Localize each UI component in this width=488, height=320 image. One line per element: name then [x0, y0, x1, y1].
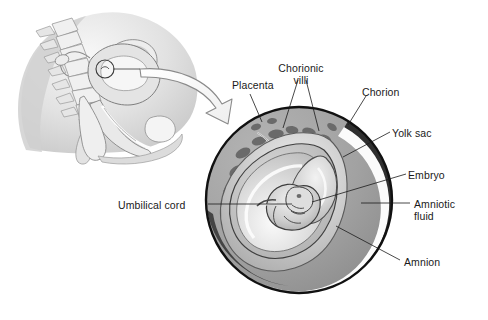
diagram-canvas	[0, 0, 488, 320]
leader-chorion	[348, 96, 366, 125]
label-embryo: Embryo	[408, 170, 445, 182]
label-amnion: Amnion	[404, 257, 440, 269]
label-umbilical-cord: Umbilical cord	[118, 200, 185, 212]
label-chorionic-villi: Chorionic villi	[265, 63, 337, 86]
embryo-eye	[297, 194, 302, 198]
label-yolk-sac-line-1: Yolk sac	[392, 128, 432, 140]
label-amniotic-fluid: Amniotic fluid	[414, 199, 455, 222]
label-chorionic-villi-line-1: Chorionic	[265, 63, 337, 75]
label-umbilical-cord-line-1: Umbilical cord	[118, 200, 185, 212]
label-chorionic-villi-line-2: villi	[265, 75, 337, 87]
label-chorion: Chorion	[362, 87, 399, 99]
label-amnion-line-1: Amnion	[404, 257, 440, 269]
embryo-head	[286, 187, 313, 213]
label-amniotic-fluid-line-2: fluid	[414, 211, 455, 223]
embryo-implantation-figure: Placenta Chorionic villi Chorion Yolk sa…	[0, 0, 488, 320]
label-amniotic-fluid-line-1: Amniotic	[414, 199, 455, 211]
label-chorion-line-1: Chorion	[362, 87, 399, 99]
label-embryo-line-1: Embryo	[408, 170, 445, 182]
label-yolk-sac: Yolk sac	[392, 128, 432, 140]
sagittal-pelvis-inset	[18, 12, 197, 164]
pubic-symphysis	[145, 116, 175, 142]
magnified-cross-section	[206, 107, 397, 300]
